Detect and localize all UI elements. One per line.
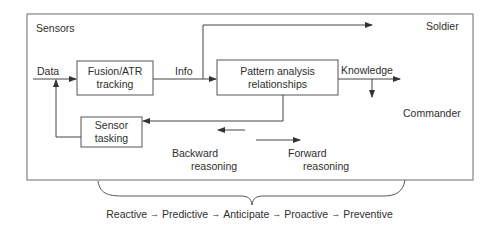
- progression-row: Reactive→Predictive→Anticipate→Proactive…: [0, 208, 499, 220]
- knowledge-label: Knowledge: [341, 64, 393, 76]
- pattern-line1: Pattern analysis: [217, 65, 338, 78]
- fusion-line2: tracking: [77, 78, 153, 91]
- arrow-right-icon: →: [211, 209, 220, 219]
- arrow-right-icon: →: [272, 209, 281, 219]
- forward-line2: reasoning: [288, 160, 349, 173]
- sensor-line1: Sensor: [81, 119, 142, 132]
- pattern-line2: relationships: [217, 78, 338, 91]
- backward-line2: reasoning: [172, 160, 237, 173]
- stage-anticipate: Anticipate: [223, 208, 269, 220]
- arrow-right-icon: →: [331, 209, 340, 219]
- info-label: Info: [175, 65, 193, 77]
- data-label: Data: [37, 65, 59, 77]
- curly-brace: [98, 180, 405, 205]
- arrow-right-icon: →: [150, 209, 159, 219]
- fusion-atr-text: Fusion/ATR tracking: [77, 65, 153, 90]
- sensor-tasking-text: Sensor tasking: [81, 119, 142, 144]
- feedback-to-sensor-tasking-arrow: [143, 95, 283, 121]
- stage-preventive: Preventive: [343, 208, 393, 220]
- forward-line1: Forward: [288, 147, 349, 160]
- outer-frame: [27, 14, 473, 180]
- stage-predictive: Predictive: [162, 208, 208, 220]
- sensors-label: Sensors: [36, 22, 75, 34]
- stage-proactive: Proactive: [284, 208, 328, 220]
- forward-reasoning-label: Forward reasoning: [288, 147, 349, 172]
- stage-reactive: Reactive: [106, 208, 147, 220]
- commander-label: Commander: [403, 107, 461, 119]
- soldier-label: Soldier: [426, 20, 459, 32]
- fusion-line1: Fusion/ATR: [77, 65, 153, 78]
- backward-reasoning-label: Backward reasoning: [172, 147, 237, 172]
- pattern-analysis-text: Pattern analysis relationships: [217, 65, 338, 90]
- sensor-line2: tasking: [81, 132, 142, 145]
- backward-line1: Backward: [172, 147, 237, 160]
